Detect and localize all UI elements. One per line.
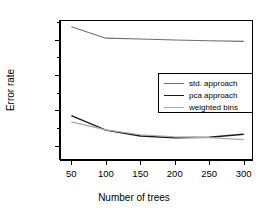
x-axis-tick: [140, 160, 141, 165]
x-axis-tick: [209, 160, 210, 165]
x-axis-title: Number of trees: [0, 192, 268, 203]
legend-item-label: weighted bins: [189, 102, 238, 113]
x-axis-tick: [106, 160, 107, 165]
x-tick-label: 200: [167, 168, 183, 179]
x-tick-label-group: 50100150200250300: [0, 168, 268, 182]
x-axis: [60, 160, 253, 168]
y-axis: [52, 20, 60, 160]
legend-swatch-line: [164, 83, 184, 84]
legend-item-label: pca approach: [189, 90, 237, 101]
chart-figure: Error rate 0.260.280.300.32 std. approac…: [0, 0, 268, 219]
legend-item: std. approach: [159, 78, 252, 89]
x-axis-tick: [175, 160, 176, 165]
x-axis-tick: [244, 160, 245, 165]
x-tick-label: 150: [132, 168, 148, 179]
series-line: [71, 27, 243, 42]
legend-swatch-line: [164, 107, 184, 108]
series-line: [71, 116, 243, 138]
legend-swatch-line: [164, 95, 184, 96]
legend-item-label: std. approach: [189, 78, 237, 89]
y-tick-label-group: 0.260.280.300.32: [0, 0, 52, 219]
legend-item: weighted bins: [159, 102, 252, 113]
legend-item: pca approach: [159, 90, 252, 101]
x-axis-line: [60, 160, 253, 161]
x-axis-tick: [71, 160, 72, 165]
x-tick-label: 300: [236, 168, 252, 179]
x-tick-label: 250: [201, 168, 217, 179]
x-tick-label: 100: [98, 168, 114, 179]
x-tick-label: 50: [66, 168, 77, 179]
legend: std. approach pca approach weighted bins: [158, 73, 253, 113]
